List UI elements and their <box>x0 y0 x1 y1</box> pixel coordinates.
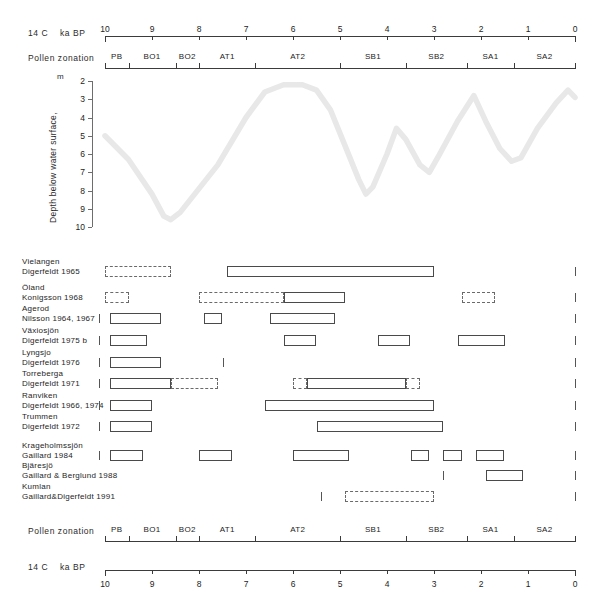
site-name: Öland <box>22 283 45 292</box>
site-reference: Digerfeldt 1965 <box>22 267 80 277</box>
zonation-boundary-tick <box>255 536 256 542</box>
row-start-tick <box>99 422 100 431</box>
row-end-tick <box>575 314 576 323</box>
site-label: TrummenDigerfeldt 1972 <box>22 412 80 431</box>
pollen-zone-label: SB1 <box>340 525 406 534</box>
axis-tick-label: 10 <box>95 579 115 589</box>
site-label: KumlanGaillard&Digerfeldt 1991 <box>22 482 115 501</box>
lake-level-bar <box>110 335 148 346</box>
row-end-tick <box>575 293 576 302</box>
row-end-tick <box>575 492 576 501</box>
axis-tick-label: 3 <box>424 579 444 589</box>
axis-tick-label: 6 <box>283 579 303 589</box>
lake-level-bar <box>265 400 434 411</box>
site-reference: Gaillard&Digerfeldt 1991 <box>22 492 115 502</box>
row-mid-tick <box>321 492 322 501</box>
lake-level-bar <box>105 292 129 303</box>
row-start-tick <box>99 314 100 323</box>
axis-tick <box>246 570 247 574</box>
site-label: AgerodNilsson 1964, 1967 <box>22 304 95 323</box>
axis-tick-label: 0 <box>565 579 585 589</box>
row-end-tick <box>575 422 576 431</box>
axis-tick <box>387 570 388 574</box>
axis-tick-label: 4 <box>377 579 397 589</box>
zonation-boundary-tick <box>176 536 177 542</box>
axis-tick-label: 5 <box>330 579 350 589</box>
site-label: TorrebergaDigerfeldt 1971 <box>22 369 80 388</box>
pollen-zone-label: BO2 <box>176 525 200 534</box>
lake-level-bar <box>406 378 420 389</box>
site-name: Torreberga <box>22 369 63 378</box>
row-end-tick <box>575 401 576 410</box>
pollen-zone-label: AT2 <box>255 525 340 534</box>
site-reference: Digerfeldt 1971 <box>22 379 80 389</box>
site-reference: Digerfeldt 1972 <box>22 422 80 432</box>
zonation-boundary-tick <box>514 536 515 542</box>
zonation-boundary-tick <box>340 536 341 542</box>
row-mid-tick <box>443 471 444 480</box>
lake-level-bar <box>227 266 434 277</box>
row-start-tick <box>99 451 100 460</box>
zonation-boundary-tick <box>575 536 576 542</box>
row-end-tick <box>575 471 576 480</box>
row-end-tick <box>575 358 576 367</box>
lake-level-bar <box>443 450 462 461</box>
axis-tick-label: 9 <box>142 579 162 589</box>
pollen-zone-label: AT1 <box>199 525 255 534</box>
lake-level-bar <box>110 400 152 411</box>
lake-level-bar <box>199 292 284 303</box>
site-name: Trummen <box>22 412 58 421</box>
site-reference: Digerfeldt 1975 b <box>22 336 87 346</box>
axis-tick <box>528 570 529 574</box>
row-mid-tick <box>223 358 224 367</box>
axis-tick <box>434 570 435 574</box>
lake-level-bar <box>317 421 444 432</box>
site-name: Vielangen <box>22 257 60 266</box>
zonation-boundary-tick <box>129 536 130 542</box>
lake-level-bar <box>486 470 524 481</box>
site-name: Kumlan <box>22 482 51 491</box>
row-start-tick <box>99 336 100 345</box>
bottom-axis-caption-kabp: ka BP <box>60 562 85 572</box>
lake-level-bar <box>476 450 504 461</box>
lake-level-bar <box>171 378 218 389</box>
lake-level-bar <box>110 313 162 324</box>
axis-tick <box>340 570 341 574</box>
lake-level-bar <box>378 335 411 346</box>
zonation-boundary-tick <box>199 536 200 542</box>
lake-level-bar <box>204 313 223 324</box>
pollen-zone-label: SB2 <box>406 525 467 534</box>
lake-level-bar <box>462 292 495 303</box>
site-name: Växiosjön <box>22 326 59 335</box>
pollen-zone-label: PB <box>105 525 129 534</box>
axis-tick-label: 7 <box>236 579 256 589</box>
pollen-zone-label: SA1 <box>467 525 514 534</box>
row-end-tick <box>575 267 576 276</box>
site-label: RanvikenDigerfeldt 1966, 1974 <box>22 391 104 410</box>
site-name: Agerod <box>22 304 49 313</box>
lake-level-bar <box>110 357 162 368</box>
site-label: KrageholmssjönGaillard 1984 <box>22 441 83 460</box>
site-name: Krageholmssjön <box>22 441 83 450</box>
site-reference: Digerfeldt 1966, 1974 <box>22 401 104 411</box>
site-reference: Nilsson 1964, 1967 <box>22 314 95 324</box>
pollen-zone-label: BO1 <box>129 525 176 534</box>
lake-level-bar <box>270 313 336 324</box>
site-reference: Digerfeldt 1976 <box>22 358 80 368</box>
site-reference: Gaillard & Berglund 1988 <box>22 471 117 481</box>
lake-level-bar <box>284 292 345 303</box>
axis-tick-label: 8 <box>189 579 209 589</box>
axis-tick <box>152 570 153 574</box>
lake-level-bar <box>199 450 232 461</box>
row-end-tick <box>575 379 576 388</box>
axis-tick <box>199 570 200 574</box>
site-name: Bjäresjö <box>22 461 53 470</box>
row-end-tick <box>575 451 576 460</box>
bottom-axis-caption-14c: 14 C <box>28 562 48 572</box>
axis-tick-label: 2 <box>471 579 491 589</box>
lake-level-bar <box>105 266 171 277</box>
zonation-boundary-tick <box>406 536 407 542</box>
lake-level-bar <box>293 378 307 389</box>
lake-level-bar <box>110 450 143 461</box>
lake-level-bar <box>307 378 406 389</box>
